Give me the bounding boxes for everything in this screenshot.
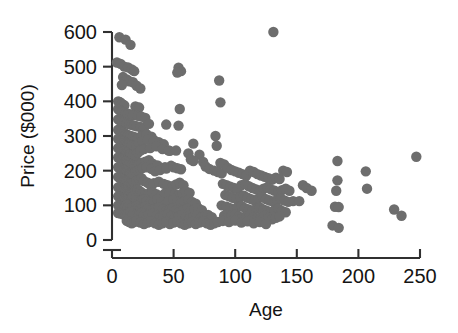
y-tick-label-500: 500 [64,56,97,78]
y-tick-label-600: 600 [64,21,97,43]
data-point [188,156,198,166]
x-tick-label-100: 100 [219,265,252,287]
y-tick-label-100: 100 [64,194,97,216]
data-point [283,197,293,207]
data-points-layer [112,27,422,233]
scatter-plot-figure: 0100200300400500600 050100150200250 Pric… [0,0,458,333]
data-point [306,186,316,196]
x-axis-title: Age [249,299,283,320]
data-point [161,119,171,129]
y-tick-label-200: 200 [64,160,97,182]
data-point [294,196,304,206]
y-tick-label-400: 400 [64,90,97,112]
data-point [396,211,406,221]
data-point [117,80,127,90]
data-point [188,138,198,148]
y-tick-label-0: 0 [86,229,97,251]
x-tick-label-250: 250 [403,265,436,287]
data-point [125,40,135,50]
data-point [173,120,183,130]
data-point [331,186,341,196]
data-point [332,175,342,185]
data-point [411,152,421,162]
data-point [333,223,343,233]
y-axis-title: Price ($000) [17,84,38,188]
data-point [282,167,292,177]
x-tick-label-150: 150 [280,265,313,287]
x-tick-label-0: 0 [106,265,117,287]
data-point [212,141,222,151]
data-point [210,131,220,141]
data-point [135,83,145,93]
plot-canvas: 0100200300400500600 050100150200250 Pric… [0,0,458,333]
data-point [361,166,371,176]
data-point [214,75,224,85]
data-point [332,156,342,166]
data-point [172,67,182,77]
x-axis-tick-labels: 050100150200250 [106,265,436,287]
x-tick-label-200: 200 [342,265,375,287]
data-point [215,97,225,107]
y-tick-label-300: 300 [64,125,97,147]
data-point [274,211,284,221]
data-point [144,119,154,129]
x-tick-label-50: 50 [162,265,184,287]
y-axis-tick-labels: 0100200300400500600 [64,21,97,251]
x-axis-ticks [112,249,420,258]
data-point [362,183,372,193]
data-point [129,66,139,76]
data-point [261,219,271,229]
data-point [175,104,185,114]
data-point [176,164,186,174]
data-point [268,27,278,37]
data-point [284,186,294,196]
data-point [171,145,181,155]
data-point [333,202,343,212]
